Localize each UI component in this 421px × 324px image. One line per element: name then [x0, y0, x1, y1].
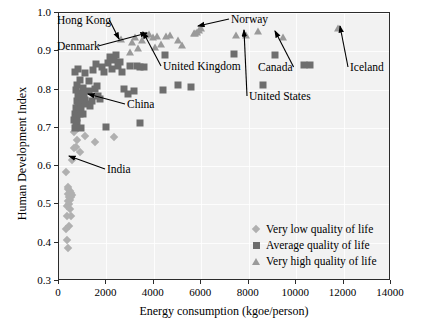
annotation-label: Denmark — [57, 40, 100, 52]
data-point-square — [130, 88, 137, 95]
data-point-square — [162, 52, 169, 59]
legend-diamond-icon — [250, 226, 262, 232]
annotation-label: Norway — [231, 13, 268, 25]
data-point-square — [174, 81, 181, 88]
data-point-triangle — [197, 25, 205, 32]
gridline-horizontal — [59, 90, 389, 91]
x-tick-label: 10000 — [281, 286, 309, 298]
data-point-square — [101, 69, 108, 76]
x-tick-mark — [343, 280, 344, 284]
y-tick-mark — [54, 242, 58, 243]
x-tick-label: 14000 — [376, 286, 404, 298]
legend-item[interactable]: Very low quality of life — [250, 221, 377, 237]
annotation-label: China — [127, 98, 154, 110]
x-tick-label: 8000 — [237, 286, 259, 298]
x-tick-mark — [58, 280, 59, 284]
gridline-horizontal — [59, 51, 389, 52]
data-point-square — [116, 59, 123, 66]
x-tick-label: 12000 — [329, 286, 357, 298]
annotation-label: United Kingdom — [163, 60, 241, 72]
data-point-diamond — [81, 132, 89, 140]
x-tick-mark — [153, 280, 154, 284]
data-point-square — [137, 120, 144, 127]
data-point-square — [77, 124, 84, 131]
data-point-square — [94, 82, 101, 89]
x-axis-label: Energy consumption (kgoe/person) — [58, 304, 390, 319]
data-point-square — [90, 67, 97, 74]
data-point-triangle — [242, 32, 250, 39]
legend-marker-glyph — [252, 225, 260, 233]
x-tick-label: 2000 — [94, 286, 116, 298]
legend-item-label: Very high quality of life — [266, 255, 377, 267]
data-point-square — [85, 78, 92, 85]
scatter-chart-figure: 02000400060008000100001200014000 0.30.40… — [0, 0, 421, 324]
data-point-diamond — [76, 148, 84, 156]
y-tick-mark — [54, 12, 58, 13]
data-point-square — [259, 81, 266, 88]
legend-square-icon — [250, 242, 262, 249]
data-point-square — [271, 52, 278, 59]
data-point-triangle — [126, 49, 134, 56]
data-point-diamond — [109, 133, 117, 141]
gridline-horizontal — [59, 204, 389, 205]
data-point-diamond — [68, 156, 76, 164]
y-tick-mark — [54, 203, 58, 204]
legend-item[interactable]: Average quality of life — [250, 237, 377, 253]
y-axis-label: Human Development Index — [15, 64, 30, 244]
legend-item-label: Average quality of life — [266, 239, 370, 251]
legend-item-label: Very low quality of life — [266, 223, 373, 235]
data-point-square — [307, 62, 314, 69]
legend-marker-glyph — [252, 258, 260, 265]
gridline-vertical — [201, 13, 202, 279]
data-point-square — [118, 68, 125, 75]
x-tick-mark — [105, 280, 106, 284]
data-point-triangle — [117, 35, 125, 42]
data-point-diamond — [64, 244, 72, 252]
y-tick-label: 1.0 — [0, 6, 51, 18]
annotation-label: United States — [249, 90, 311, 102]
gridline-vertical — [106, 13, 107, 279]
y-tick-mark — [54, 127, 58, 128]
annotation-label: India — [107, 163, 131, 175]
x-tick-mark — [200, 280, 201, 284]
y-tick-mark — [54, 165, 58, 166]
data-point-triangle — [178, 41, 186, 48]
x-tick-mark — [248, 280, 249, 284]
x-tick-mark — [295, 280, 296, 284]
annotation-label: Iceland — [350, 61, 384, 73]
y-tick-mark — [54, 89, 58, 90]
y-tick-mark — [54, 280, 58, 281]
data-point-square — [77, 76, 84, 83]
legend-item[interactable]: Very high quality of life — [250, 253, 377, 269]
data-point-square — [187, 83, 194, 90]
gridline-vertical — [154, 13, 155, 279]
legend-marker-glyph — [253, 242, 260, 249]
data-point-diamond — [62, 168, 70, 176]
data-point-square — [81, 70, 88, 77]
x-tick-label: 6000 — [189, 286, 211, 298]
data-point-square — [141, 63, 148, 70]
data-point-triangle — [128, 38, 136, 45]
data-point-square — [79, 111, 86, 118]
chart-legend: Very low quality of lifeAverage quality … — [250, 221, 377, 269]
y-tick-label: 0.9 — [0, 44, 51, 56]
annotation-label: Canada — [258, 61, 292, 73]
x-tick-mark — [390, 280, 391, 284]
y-tick-label: 0.3 — [0, 274, 51, 286]
annotation-label: Hong Kong — [57, 14, 111, 26]
data-point-triangle — [279, 33, 287, 40]
x-tick-label: 4000 — [142, 286, 164, 298]
data-point-triangle — [153, 32, 161, 39]
data-point-square — [96, 96, 103, 103]
data-point-triangle — [334, 24, 342, 31]
legend-triangle-icon — [250, 258, 262, 265]
data-point-square — [160, 86, 167, 93]
data-point-diamond — [90, 138, 98, 146]
data-point-triangle — [151, 43, 159, 50]
data-point-triangle — [134, 45, 142, 52]
data-point-square — [231, 51, 238, 58]
data-point-square — [102, 123, 109, 130]
data-point-triangle — [254, 27, 262, 34]
x-tick-label: 0 — [55, 286, 61, 298]
data-point-triangle — [232, 31, 240, 38]
